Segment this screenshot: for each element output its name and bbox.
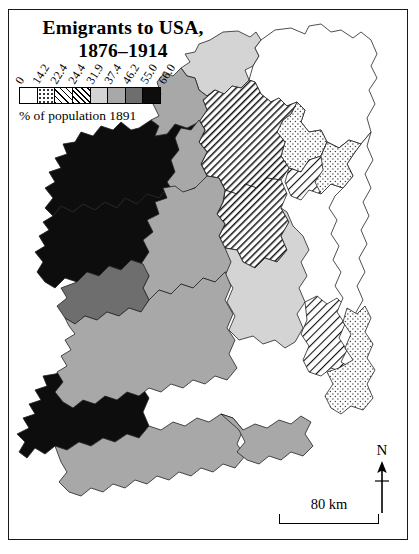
legend: 0 14.2 22.4 24.4 31.9 37.4 46.2 55.0 66.… [19,57,179,124]
legend-swatch-5 [108,88,126,103]
scale-bar-rule [279,514,379,524]
legend-swatch-7 [143,88,160,103]
legend-swatch-3 [73,88,91,103]
legend-swatch-0 [20,88,38,103]
emigration-map-figure: Emigrants to USA, 1876–1914 0 14.2 22.4 … [0,0,419,554]
legend-swatch-2 [55,88,73,103]
legend-tick-8: 66.0 [155,61,179,87]
legend-swatch-1 [38,88,56,103]
north-arrow: N [367,442,397,519]
legend-tick-labels: 0 14.2 22.4 24.4 31.9 37.4 46.2 55.0 66.… [19,57,179,87]
scale-bar-label: 80 km [279,497,379,512]
scale-bar: 80 km [279,497,379,524]
legend-color-bar [19,87,161,104]
legend-swatch-6 [126,88,144,103]
north-arrow-icon [370,459,394,515]
map-frame: Emigrants to USA, 1876–1914 0 14.2 22.4 … [8,9,408,540]
north-arrow-label: N [367,442,397,458]
legend-caption: % of population 1891 [19,108,179,124]
legend-swatch-4 [91,88,109,103]
